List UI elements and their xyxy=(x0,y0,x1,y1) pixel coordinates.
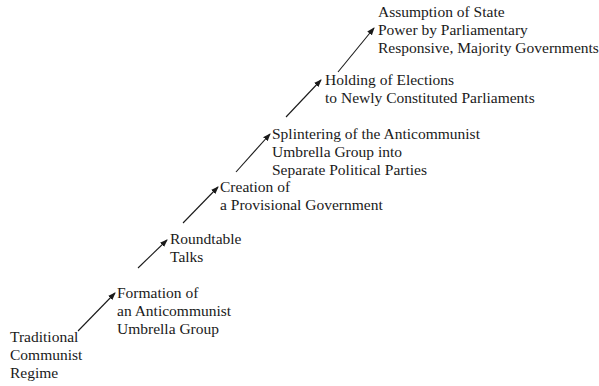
arrow-icon xyxy=(78,293,115,331)
stage-line: Separate Political Parties xyxy=(272,161,480,179)
stage-line: Power by Parliamentary xyxy=(378,21,599,39)
stage-line: an Anticommunist xyxy=(117,302,231,320)
stage-provisional-government: Creation of a Provisional Government xyxy=(220,178,383,214)
stage-line: Communist xyxy=(10,346,82,364)
stage-line: Holding of Elections xyxy=(325,71,535,89)
stage-line: Roundtable xyxy=(170,230,241,248)
stage-line: Assumption of State xyxy=(378,3,599,21)
arrow-icon xyxy=(138,240,167,268)
arrow-icon xyxy=(286,80,321,117)
stage-line: Creation of xyxy=(220,178,383,196)
stage-formation-umbrella-group: Formation of an Anticommunist Umbrella G… xyxy=(117,284,231,338)
stage-roundtable-talks: Roundtable Talks xyxy=(170,230,241,266)
stage-assumption-state-power: Assumption of State Power by Parliamenta… xyxy=(378,3,599,57)
arrow-icon xyxy=(338,28,374,72)
stage-line: Umbrella Group xyxy=(117,320,231,338)
stage-line: Responsive, Majority Governments xyxy=(378,39,599,57)
stage-line: Regime xyxy=(10,364,82,382)
stage-line: a Provisional Government xyxy=(220,196,383,214)
stage-holding-elections: Holding of Elections to Newly Constitute… xyxy=(325,71,535,107)
stage-line: Traditional xyxy=(10,328,82,346)
stage-line: Formation of xyxy=(117,284,231,302)
stage-line: Splintering of the Anticommunist xyxy=(272,125,480,143)
stage-line: to Newly Constituted Parliaments xyxy=(325,89,535,107)
arrow-icon xyxy=(183,187,218,223)
stage-line: Talks xyxy=(170,248,241,266)
stage-line: Umbrella Group into xyxy=(272,143,480,161)
stage-splintering-parties: Splintering of the Anticommunist Umbrell… xyxy=(272,125,480,179)
arrow-icon xyxy=(236,134,270,172)
stage-traditional-communist-regime: Traditional Communist Regime xyxy=(10,328,82,382)
